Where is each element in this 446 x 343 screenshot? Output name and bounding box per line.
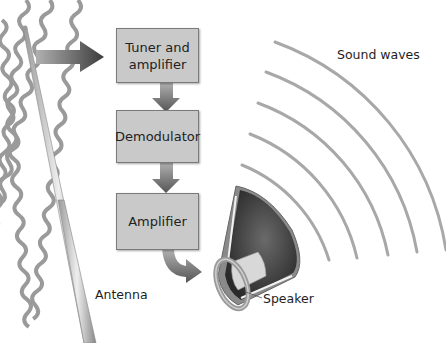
demodulator-label: Demodulator	[115, 128, 200, 145]
speaker-label: Speaker	[263, 291, 314, 306]
antenna-label: Antenna	[95, 287, 148, 302]
radio-waves	[0, 0, 82, 333]
arrow-demodulator-to-amplifier	[152, 161, 180, 193]
sound-waves-label: Sound waves	[337, 47, 420, 62]
tuner-amplifier-block: Tuner and amplifier	[116, 28, 199, 83]
demodulator-block: Demodulator	[116, 110, 199, 163]
sound-wave-5	[275, 42, 446, 250]
amplifier-label: Amplifier	[128, 213, 187, 230]
tuner-label-line1: Tuner and	[125, 39, 189, 56]
arrow-tuner-to-demodulator	[152, 81, 180, 112]
tuner-label-line2: amplifier	[129, 56, 187, 73]
amplifier-block: Amplifier	[116, 193, 199, 250]
arrow-amplifier-to-speaker	[162, 248, 202, 283]
